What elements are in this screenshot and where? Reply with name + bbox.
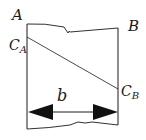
label-c-a: CA [9,37,27,55]
arrowhead-left-icon [28,104,53,120]
label-c-b-subscript: B [131,90,139,101]
top-broken-edge [27,24,118,33]
label-b: B [127,17,139,35]
bottom-broken-edge [27,122,118,129]
label-c-b: CB [121,83,139,101]
label-a: A [10,6,23,24]
concentration-gradient-line [27,37,118,89]
label-width-b: b [57,86,67,105]
label-c-a-subscript: A [19,44,27,55]
concentration-profile-diagram: A B CA CB b [0,0,146,140]
arrowhead-right-icon [93,104,118,120]
